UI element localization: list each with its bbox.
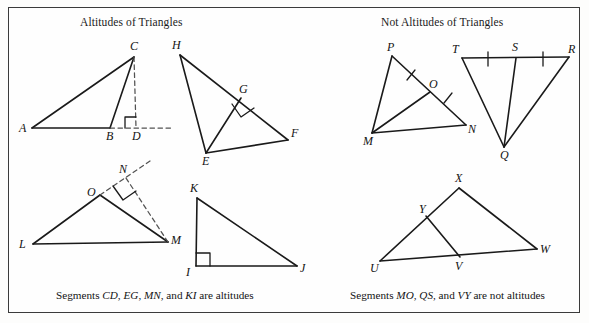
- vertex-label-l: L: [19, 238, 26, 250]
- vertex-label-a: A: [19, 122, 26, 134]
- caption-right-seg3: VY: [458, 289, 471, 301]
- caption-left-tail: are altitudes: [196, 289, 253, 301]
- vertex-label-j: J: [300, 262, 305, 274]
- caption-not-altitudes: Segments MO, QS, and VY are not altitude…: [350, 289, 545, 301]
- caption-right-tail: are not altitudes: [471, 289, 545, 301]
- vertex-label-n-pmn: N: [468, 123, 476, 135]
- caption-left-seg3: MN: [144, 289, 161, 301]
- heading-altitudes: Altitudes of Triangles: [80, 16, 183, 28]
- vertex-label-w: W: [540, 243, 550, 255]
- caption-right-seg1: MO: [396, 289, 413, 301]
- vertex-label-v: V: [455, 260, 462, 272]
- caption-left-seg2: EG: [123, 289, 138, 301]
- caption-right-seg2: QS: [419, 289, 433, 301]
- vertex-label-f: F: [291, 127, 298, 139]
- vertex-label-n-lom: N: [119, 163, 127, 175]
- vertex-label-b: B: [106, 130, 113, 142]
- vertex-label-c: C: [130, 40, 138, 52]
- vertex-label-o-pmn: O: [429, 78, 438, 90]
- vertex-label-x: X: [455, 172, 462, 184]
- vertex-label-y: Y: [419, 203, 426, 215]
- vertex-label-i: I: [186, 266, 190, 278]
- vertex-label-r: R: [568, 43, 575, 55]
- vertex-label-h: H: [172, 39, 181, 51]
- caption-left-seg1: CD: [102, 289, 118, 301]
- vertex-label-m-lom: M: [171, 234, 181, 246]
- vertex-label-q: Q: [500, 149, 509, 161]
- heading-not-altitudes: Not Altitudes of Triangles: [381, 16, 503, 28]
- geometry-figure-page: Altitudes of Triangles Not Altitudes of …: [0, 0, 589, 323]
- caption-right-lead: Segments: [350, 289, 396, 301]
- vertex-label-o-lom: O: [87, 186, 96, 198]
- vertex-label-e: E: [202, 155, 209, 167]
- caption-right-sep2: , and: [433, 289, 458, 301]
- caption-left-seg4: KI: [185, 289, 196, 301]
- caption-left-sep3: , and: [161, 289, 186, 301]
- vertex-label-p: P: [387, 41, 394, 53]
- vertex-label-k: K: [190, 182, 198, 194]
- vertex-label-d: D: [132, 130, 141, 142]
- vertex-label-g: G: [239, 83, 248, 95]
- vertex-label-u: U: [370, 262, 379, 274]
- caption-left-lead: Segments: [56, 289, 102, 301]
- vertex-label-s: S: [512, 41, 518, 53]
- vertex-label-m-pmn: M: [363, 135, 373, 147]
- caption-altitudes: Segments CD, EG, MN, and KI are altitude…: [56, 289, 254, 301]
- figure-frame: [8, 7, 580, 313]
- vertex-label-t: T: [452, 43, 459, 55]
